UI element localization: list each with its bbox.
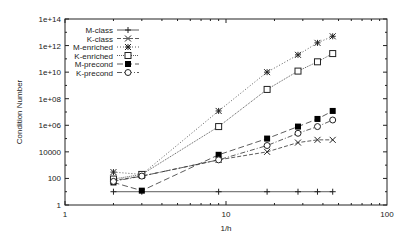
y-tick-label: 100	[48, 174, 62, 183]
x-axis-label: 1/h	[220, 224, 231, 233]
y-tick-label: 1e+08	[39, 95, 62, 104]
y-axis-label: Condition Number	[15, 79, 24, 144]
x-tick-label: 100	[380, 210, 394, 219]
y-tick-label: 1	[57, 201, 62, 210]
x-tick-label: 10	[222, 210, 231, 219]
y-tick-label: 1e+10	[39, 68, 62, 77]
legend-label: K-precond	[76, 69, 113, 78]
y-tick-label: 1e+06	[39, 121, 62, 130]
plot-area: 1100100001e+061e+081e+101e+121e+14110100…	[0, 0, 411, 236]
series-line	[113, 140, 332, 181]
chart: 1100100001e+061e+081e+101e+121e+14110100…	[0, 0, 411, 236]
y-tick-label: 1e+14	[39, 15, 62, 24]
y-tick-label: 1e+12	[39, 42, 62, 51]
x-tick-label: 1	[63, 210, 68, 219]
y-tick-label: 10000	[39, 148, 62, 157]
